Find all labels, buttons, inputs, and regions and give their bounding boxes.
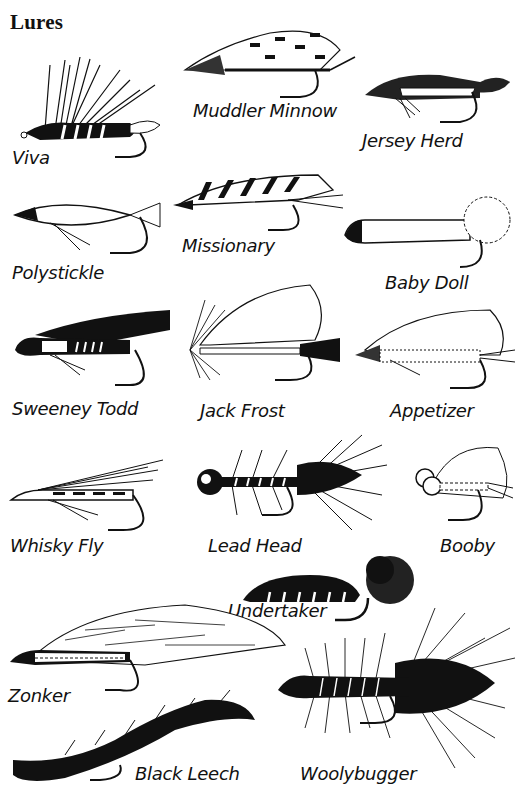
fly-label-polystickle: Polystickle — [12, 262, 104, 283]
missionary-illustration — [168, 160, 348, 230]
fly-label-missionary: Missionary — [182, 235, 275, 256]
lead-head-illustration — [192, 435, 387, 535]
fly-label-appetizer: Appetizer — [390, 400, 474, 421]
zonker-illustration — [5, 600, 290, 695]
baby-doll-illustration — [340, 195, 515, 270]
fly-label-sweeney-todd: Sweeney Todd — [12, 398, 138, 419]
muddler-minnow-illustration — [180, 25, 360, 100]
woolybugger-illustration — [275, 608, 515, 773]
fly-label-woolybugger: Woolybugger — [300, 763, 416, 784]
fly-label-viva: Viva — [12, 147, 50, 168]
fly-label-booby: Booby — [440, 535, 495, 556]
booby-illustration — [408, 438, 513, 523]
sweeney-todd-illustration — [10, 310, 170, 385]
fly-label-muddler-minnow: Muddler Minnow — [193, 100, 337, 121]
fly-label-black-leech: Black Leech — [135, 763, 240, 784]
whisky-fly-illustration — [8, 455, 168, 530]
fly-label-whisky-fly: Whisky Fly — [10, 535, 103, 556]
appetizer-illustration — [350, 300, 515, 390]
fly-label-jack-frost: Jack Frost — [200, 400, 285, 421]
fly-label-jersey-herd: Jersey Herd — [362, 130, 463, 151]
fly-label-baby-doll: Baby Doll — [385, 272, 468, 293]
polystickle-illustration — [10, 195, 160, 260]
page-title: Lures — [10, 10, 63, 35]
jack-frost-illustration — [180, 280, 345, 385]
jersey-herd-illustration — [360, 60, 515, 130]
